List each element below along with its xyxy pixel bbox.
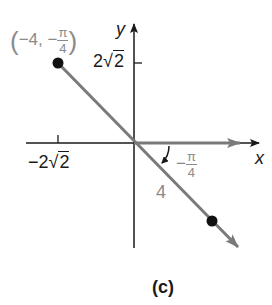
x-axis-label: x — [255, 149, 264, 167]
y-tick-label: 2√2 — [93, 52, 124, 70]
angle-label: −π4 — [176, 150, 197, 179]
x-tick-sqrt: √2 — [49, 153, 70, 171]
x-tick-coefficient: −2 — [28, 152, 49, 172]
y-axis-label: y — [116, 20, 125, 38]
y-tick-sqrt: √2 — [103, 52, 124, 70]
point-negative-r — [53, 58, 64, 69]
point-label: (−4, −π4) — [10, 26, 77, 55]
y-axis — [134, 24, 142, 248]
x-tick-label: −2√2 — [28, 153, 69, 171]
radius-label: 4 — [156, 183, 166, 201]
y-tick-coefficient: 2 — [93, 51, 103, 71]
figure-caption: (c) — [152, 278, 174, 296]
angle-arc — [162, 146, 169, 163]
point-plotted — [207, 216, 218, 227]
